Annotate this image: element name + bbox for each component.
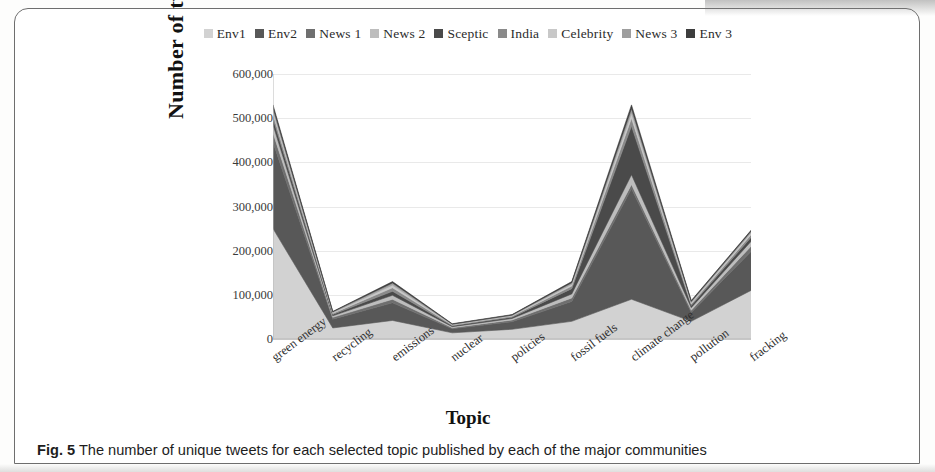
page-border: Env1Env2News 1News 2ScepticIndiaCelebrit… — [14, 8, 920, 464]
y-tick-label: 400,000 — [203, 155, 273, 170]
figure-caption: Fig. 5 The number of unique tweets for e… — [37, 441, 917, 459]
y-tick-label: 600,000 — [203, 67, 273, 82]
y-tick-label: 100,000 — [203, 287, 273, 302]
y-axis-label: Number of tweets — [163, 0, 189, 119]
y-tick-label: 200,000 — [203, 243, 273, 258]
x-axis-label: Topic — [15, 407, 921, 429]
caption-label: Fig. 5 — [37, 442, 75, 458]
area-series-env2 — [273, 142, 751, 332]
figure-page: Env1Env2News 1News 2ScepticIndiaCelebrit… — [0, 0, 935, 472]
y-tick-label: 0 — [203, 332, 273, 347]
y-tick-label: 300,000 — [203, 199, 273, 214]
caption-text: The number of unique tweets for each sel… — [79, 442, 707, 458]
scan-artifact-bottom — [0, 464, 935, 472]
y-tick-label: 500,000 — [203, 111, 273, 126]
y-axis-ticks: 0100,000200,000300,000400,000500,000600,… — [201, 9, 273, 429]
figure-area: Env1Env2News 1News 2ScepticIndiaCelebrit… — [15, 9, 921, 429]
plot-area: Number of tweets 0100,000200,000300,0004… — [15, 9, 921, 429]
